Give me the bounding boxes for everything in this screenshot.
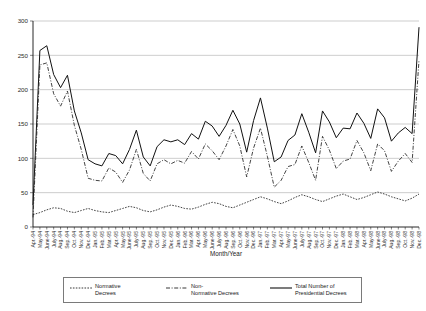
x-tick-label: Sep.-96	[230, 231, 236, 249]
x-tick-label: Apr.-95	[113, 231, 119, 248]
dash-dot-line-swatch	[166, 284, 188, 292]
y-tick-label: 300	[18, 17, 29, 24]
x-tick-label: Dec.-94	[85, 231, 91, 249]
x-tick-label: Feb.-97	[264, 231, 270, 249]
dotted-line-swatch	[70, 284, 92, 292]
legend-label-total: Total Number of Presidential Decrees	[295, 283, 347, 297]
x-tick-label: June-98	[375, 231, 381, 250]
series-line-total	[33, 27, 419, 205]
x-tick-label: Nov.-97	[326, 231, 332, 249]
y-axis-tick-labels: 050100150200250300	[18, 17, 29, 230]
x-tick-label: Dec.-95	[168, 231, 174, 249]
legend-label-total-line1: Total Number of	[295, 283, 347, 290]
legend-label-normative: Normative Decrees	[95, 283, 121, 297]
x-tick-label: July-96	[216, 231, 222, 248]
x-tick-label: Apr.-96	[195, 231, 201, 248]
x-tick-label: Oct.-96	[237, 231, 243, 248]
x-tick-label: May-96	[202, 231, 208, 248]
x-tick-label: Sep.-94	[64, 231, 70, 249]
legend-label-non-normative-line1: Non-	[191, 283, 239, 290]
legend-label-non-normative: Non- Normative Decrees	[191, 283, 239, 297]
y-tick-label: 150	[18, 120, 29, 127]
chart-legend: Normative Decrees Non- Normative Decrees	[63, 277, 362, 303]
x-tick-label: Aug.-95	[140, 231, 146, 249]
y-tick-label: 50	[21, 189, 28, 196]
x-tick-label: Aug.-96	[223, 231, 229, 249]
x-tick-label: Dec.-96	[250, 231, 256, 249]
x-tick-label: Nov.-95	[161, 231, 167, 249]
legend-item-non-normative: Non- Normative Decrees	[166, 283, 270, 297]
x-tick-label: Jan.-97	[257, 231, 263, 248]
legend-label-normative-line2: Decrees	[95, 290, 121, 297]
x-tick-label: Aug.-97	[306, 231, 312, 249]
x-axis-title: Month/Year	[210, 250, 242, 257]
x-tick-label: June-96	[209, 231, 215, 250]
x-tick-label: Jan.-96	[175, 231, 181, 248]
line-chart-svg: 050100150200250300 Apr.-94May-94June-94J…	[0, 0, 426, 260]
y-tick-label: 250	[18, 52, 29, 59]
legend-label-total-line2: Presidential Decrees	[295, 290, 347, 297]
x-tick-label: June-97	[292, 231, 298, 250]
series-line-non-normative	[33, 60, 419, 217]
x-tick-label: July-95	[133, 231, 139, 248]
x-tick-label: Sep.-95	[147, 231, 153, 249]
legend-item-total: Total Number of Presidential Decrees	[270, 283, 347, 297]
x-tick-label: Sep.-98	[395, 231, 401, 249]
x-tick-label: May-98	[368, 231, 374, 248]
x-tick-label: Feb.-95	[99, 231, 105, 249]
x-tick-label: Nov.-96	[244, 231, 250, 249]
x-tick-label: Jan.-95	[92, 231, 98, 248]
x-tick-label: Apr.-94	[30, 231, 36, 248]
x-tick-label: Aug.-98	[388, 231, 394, 249]
x-tick-label: Dec.-97	[333, 231, 339, 249]
x-tick-label: Oct.-95	[154, 231, 160, 248]
x-tick-label: Sep.-97	[313, 231, 319, 249]
x-tick-label: May-95	[120, 231, 126, 248]
chart-figure: 050100150200250300 Apr.-94May-94June-94J…	[0, 0, 426, 311]
gridlines	[33, 21, 419, 193]
x-tick-label: Mar.-96	[188, 231, 194, 248]
x-tick-label: Oct.-98	[402, 231, 408, 248]
y-tick-label: 100	[18, 155, 29, 162]
x-tick-label: Dec.-98	[416, 231, 422, 249]
x-tick-label: May-94	[37, 231, 43, 248]
x-tick-label: July-94	[51, 231, 57, 248]
y-tick-label: 200	[18, 86, 29, 93]
x-tick-label: May-97	[285, 231, 291, 248]
legend-label-normative-line1: Normative	[95, 283, 121, 290]
x-tick-label: Nov.-94	[78, 231, 84, 249]
x-tick-label: July-98	[381, 231, 387, 248]
x-tick-label: Apr.-98	[361, 231, 367, 248]
x-tick-label: Mar.-97	[271, 231, 277, 248]
x-axis-tick-labels: Apr.-94May-94June-94July-94Aug.-94Sep.-9…	[30, 231, 422, 250]
x-tick-label: Aug.-94	[57, 231, 63, 249]
plot-area: 050100150200250300 Apr.-94May-94June-94J…	[0, 0, 426, 260]
y-tick-label: 0	[25, 223, 29, 230]
solid-line-swatch	[270, 284, 292, 292]
x-tick-label: June-95	[126, 231, 132, 250]
x-tick-label: Feb.-96	[182, 231, 188, 249]
x-tick-label: June-94	[44, 231, 50, 250]
x-tick-label: Jan.-98	[340, 231, 346, 248]
x-tick-label: July-97	[299, 231, 305, 248]
series-line-normative	[33, 192, 419, 215]
x-tick-label: Oct.-97	[319, 231, 325, 248]
x-tick-label: Nov.-98	[409, 231, 415, 249]
x-tick-label: Apr.-97	[278, 231, 284, 248]
x-tick-label: Oct.-94	[71, 231, 77, 248]
legend-item-normative: Normative Decrees	[70, 283, 166, 297]
legend-label-non-normative-line2: Normative Decrees	[191, 290, 239, 297]
x-tick-label: Mar.-95	[106, 231, 112, 248]
x-tick-label: Feb.-98	[347, 231, 353, 249]
x-tick-label: Mar.-98	[354, 231, 360, 248]
